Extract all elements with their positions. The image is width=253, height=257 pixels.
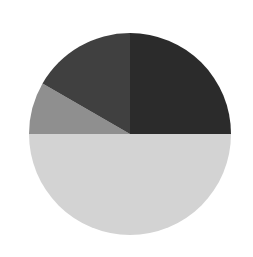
pie-chart <box>0 0 253 257</box>
pie-chart-svg <box>0 0 253 257</box>
pie-slices <box>29 33 231 235</box>
